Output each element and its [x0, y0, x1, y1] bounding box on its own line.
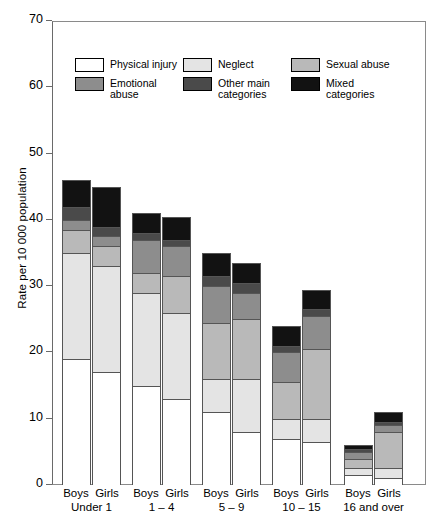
bar-segment-emotional-abuse: [303, 316, 330, 349]
bar-girls-1-–-4[interactable]: [162, 217, 191, 485]
legend-swatch-icon: [75, 58, 104, 72]
bar-segment-mixed-categories: [273, 326, 300, 346]
legend-item-physical-injury[interactable]: Physical injury: [75, 57, 183, 72]
bar-segment-mixed-categories: [93, 187, 120, 227]
bar-segment-mixed-categories: [303, 290, 330, 310]
y-tick-label: 40: [29, 211, 43, 225]
bar-segment-sexual-abuse: [345, 459, 372, 469]
x-axis-sub-label: Boys: [201, 487, 232, 499]
bar-boys-16-and-over[interactable]: [344, 445, 373, 485]
legend-item-neglect[interactable]: Neglect: [183, 57, 291, 72]
bar-segment-physical-injury: [233, 432, 260, 485]
legend-row: Physical injuryNeglectSexual abuse: [75, 57, 375, 72]
x-axis-sub-label: Boys: [61, 487, 92, 499]
legend-item-mixed-categories[interactable]: Mixed categories: [291, 76, 399, 99]
bar-segment-neglect: [345, 468, 372, 475]
chart-legend: Physical injuryNeglectSexual abuseEmotio…: [75, 57, 375, 103]
bar-segment-sexual-abuse: [163, 276, 190, 312]
x-axis-subgroup-labels: BoysGirls: [54, 487, 129, 499]
legend-row: Emotional abuseOther main categoriesMixe…: [75, 76, 375, 99]
bar-segment-mixed-categories: [163, 217, 190, 240]
bar-segment-other-main-categories: [203, 276, 230, 286]
x-axis-group-label: Under 1: [54, 501, 129, 513]
legend-label: Sexual abuse: [326, 57, 390, 70]
legend-swatch-icon: [183, 58, 212, 72]
x-axis-group-label: 1 – 4: [124, 501, 199, 513]
x-axis-group: BoysGirlsUnder 1: [54, 487, 129, 513]
bar-segment-other-main-categories: [163, 240, 190, 247]
bar-segment-emotional-abuse: [375, 425, 402, 432]
y-tick-label: 30: [29, 277, 43, 291]
x-axis-group: BoysGirls16 and over: [336, 487, 411, 513]
legend-item-emotional-abuse[interactable]: Emotional abuse: [75, 76, 183, 99]
bar-boys-5-–-9[interactable]: [202, 253, 231, 485]
bar-segment-emotional-abuse: [163, 246, 190, 276]
x-axis-sub-label: Girls: [232, 487, 263, 499]
bar-segment-sexual-abuse: [63, 230, 90, 253]
x-axis-group-label: 10 – 15: [264, 501, 339, 513]
legend-swatch-icon: [291, 77, 320, 91]
bar-segment-other-main-categories: [303, 309, 330, 316]
bar-segment-emotional-abuse: [345, 452, 372, 459]
bar-boys-10-–-15[interactable]: [272, 326, 301, 485]
x-axis-sub-label: Girls: [162, 487, 193, 499]
bar-segment-physical-injury: [93, 372, 120, 485]
bar-segment-neglect: [203, 379, 230, 412]
bar-segment-other-main-categories: [133, 233, 160, 240]
legend-label: Emotional abuse: [110, 76, 183, 99]
bar-segment-neglect: [63, 253, 90, 359]
y-tick-label: 70: [29, 12, 43, 26]
bar-segment-neglect: [303, 419, 330, 442]
bar-segment-emotional-abuse: [203, 286, 230, 322]
bar-segment-sexual-abuse: [203, 323, 230, 379]
x-axis-sub-label: Girls: [92, 487, 123, 499]
bar-segment-neglect: [163, 313, 190, 399]
x-axis-sub-label: Boys: [271, 487, 302, 499]
y-tick-label: 60: [29, 78, 43, 92]
bar-girls-10-–-15[interactable]: [302, 290, 331, 486]
bar-segment-mixed-categories: [203, 253, 230, 276]
y-tick-label: 50: [29, 145, 43, 159]
x-axis-group-label: 16 and over: [336, 501, 411, 513]
bar-segment-other-main-categories: [233, 283, 260, 293]
bar-girls-16-and-over[interactable]: [374, 412, 403, 485]
bar-boys-under-1[interactable]: [62, 180, 91, 485]
bar-segment-neglect: [93, 266, 120, 372]
bar-segment-other-main-categories: [63, 207, 90, 220]
bar-segment-mixed-categories: [63, 180, 90, 207]
bar-segment-physical-injury: [375, 478, 402, 485]
y-tick-label: 20: [29, 343, 43, 357]
bar-girls-under-1[interactable]: [92, 187, 121, 485]
bar-segment-sexual-abuse: [233, 319, 260, 379]
x-axis-labels: BoysGirlsUnder 1BoysGirls1 – 4BoysGirls5…: [52, 487, 426, 526]
legend-swatch-icon: [291, 58, 320, 72]
bar-segment-emotional-abuse: [133, 240, 160, 273]
x-axis-group-label: 5 – 9: [194, 501, 269, 513]
y-tick-label: 10: [29, 410, 43, 424]
legend-swatch-icon: [75, 77, 104, 91]
bar-segment-physical-injury: [163, 399, 190, 485]
x-axis-sub-label: Girls: [374, 487, 405, 499]
bar-segment-neglect: [233, 379, 260, 432]
x-axis-group: BoysGirls5 – 9: [194, 487, 269, 513]
legend-label: Neglect: [218, 57, 254, 70]
legend-item-other-main-categories[interactable]: Other main categories: [183, 76, 291, 99]
x-axis-subgroup-labels: BoysGirls: [124, 487, 199, 499]
x-axis-group: BoysGirls1 – 4: [124, 487, 199, 513]
x-axis-sub-label: Boys: [131, 487, 162, 499]
bar-segment-emotional-abuse: [233, 293, 260, 320]
x-axis-sub-label: Girls: [302, 487, 333, 499]
bar-boys-1-–-4[interactable]: [132, 213, 161, 485]
bar-segment-sexual-abuse: [133, 273, 160, 293]
bar-segment-emotional-abuse: [63, 220, 90, 230]
bar-segment-physical-injury: [273, 439, 300, 485]
bar-segment-sexual-abuse: [93, 246, 120, 266]
bar-segment-emotional-abuse: [93, 236, 120, 246]
stacked-bar-chart: Rate per 10 000 population 0102030405060…: [0, 0, 431, 526]
bar-segment-physical-injury: [345, 475, 372, 485]
legend-item-sexual-abuse[interactable]: Sexual abuse: [291, 57, 399, 72]
bar-segment-physical-injury: [63, 359, 90, 485]
bar-girls-5-–-9[interactable]: [232, 263, 261, 485]
bar-segment-physical-injury: [203, 412, 230, 485]
bar-segment-other-main-categories: [93, 227, 120, 237]
